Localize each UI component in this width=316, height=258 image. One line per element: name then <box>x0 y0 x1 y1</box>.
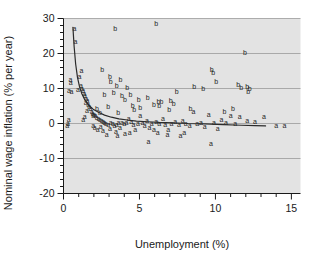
data-point-b: b <box>157 102 161 109</box>
data-point-a: a <box>283 122 287 129</box>
data-point-b: b <box>115 82 119 89</box>
data-point-a: a <box>216 125 220 132</box>
data-point-a: a <box>99 123 103 130</box>
data-point-b: b <box>137 96 141 103</box>
data-point-a: a <box>233 120 237 127</box>
data-point-a: a <box>157 120 161 127</box>
data-point-b: b <box>239 84 243 91</box>
data-point-a: a <box>209 140 213 147</box>
data-point-b: b <box>246 88 250 95</box>
data-point-b: b <box>188 105 192 112</box>
data-point-b: b <box>106 103 110 110</box>
data-point-a: a <box>188 122 192 129</box>
data-point-a: a <box>123 130 127 137</box>
x-tick-label-5: 5 <box>137 202 143 214</box>
x-tick-label-0: 0 <box>61 202 67 214</box>
data-point-a: a <box>81 116 85 123</box>
data-point-b: b <box>138 104 142 111</box>
x-tick-label-10: 10 <box>210 202 222 214</box>
data-point-b: b <box>152 101 156 108</box>
data-point-b: b <box>100 66 104 73</box>
data-point-a: a <box>147 138 151 145</box>
data-point-b: b <box>211 69 215 76</box>
data-point-b: b <box>132 106 136 113</box>
data-point-b: b <box>109 78 113 85</box>
data-point-a: a <box>274 122 278 129</box>
data-point-a: a <box>229 112 233 119</box>
data-point-b: b <box>167 106 171 113</box>
data-point-a: a <box>91 122 95 129</box>
data-point-a: a <box>115 132 119 139</box>
data-point-b: b <box>172 100 176 107</box>
data-point-a: a <box>156 129 160 136</box>
y-tick-label--20: -20 <box>39 187 54 199</box>
y-tick-label--10: -10 <box>39 152 54 164</box>
data-point-a: a <box>133 126 137 133</box>
data-point-a: a <box>182 129 186 136</box>
data-point-a: a <box>69 79 73 86</box>
data-point-a: a <box>220 116 224 123</box>
data-point-b: b <box>91 112 95 119</box>
x-axis-label: Unemployment (%) <box>135 238 229 250</box>
data-point-b: b <box>243 49 247 56</box>
y-tick-label-10: 10 <box>43 82 55 94</box>
scatter-plot-svg: -20-100102030 051015 aaaaaaaaaaaaaaaaaaa… <box>0 0 316 258</box>
data-point-b: b <box>113 25 117 32</box>
data-point-a: a <box>69 88 73 95</box>
data-point-a: a <box>262 113 266 120</box>
x-tick-label-15: 15 <box>286 202 298 214</box>
data-point-b: b <box>128 91 132 98</box>
data-point-b: b <box>201 85 205 92</box>
data-point-a: a <box>166 131 170 138</box>
data-point-b: b <box>116 109 120 116</box>
data-point-b: b <box>214 78 218 85</box>
y-tick-label-30: 30 <box>43 12 55 24</box>
data-point-b: b <box>146 94 150 101</box>
data-point-b: b <box>154 20 158 27</box>
data-point-b: b <box>231 105 235 112</box>
chart-figure: -20-100102030 051015 aaaaaaaaaaaaaaaaaaa… <box>0 0 316 258</box>
data-point-b: b <box>192 83 196 90</box>
data-point-b: b <box>223 108 227 115</box>
data-point-b: b <box>112 89 116 96</box>
data-point-a: a <box>65 122 69 129</box>
y-tick-label-20: 20 <box>43 47 55 59</box>
data-point-a: a <box>128 129 132 136</box>
data-point-b: b <box>103 91 107 98</box>
data-point-a: a <box>105 131 109 138</box>
data-point-a: a <box>145 117 149 124</box>
data-point-b: b <box>175 88 179 95</box>
y-axis-label: Nominal wage inflation (% per year) <box>2 36 14 210</box>
data-point-b: b <box>119 76 123 83</box>
data-point-a: a <box>253 118 257 125</box>
data-point-a: a <box>238 113 242 120</box>
y-tick-label-0: 0 <box>49 117 55 129</box>
data-point-a: a <box>245 117 249 124</box>
data-point-a: a <box>207 111 211 118</box>
data-point-b: b <box>123 96 127 103</box>
plot-area-background <box>64 19 301 194</box>
